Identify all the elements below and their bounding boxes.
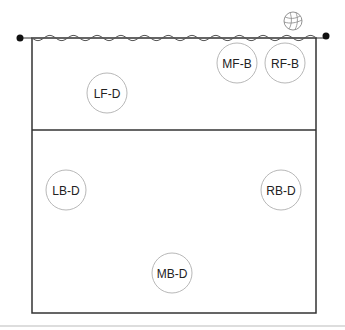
player-label: LB-D bbox=[52, 184, 80, 198]
left-net-post bbox=[17, 35, 24, 42]
players-group: MF-BRF-BLF-DLB-DRB-DMB-D bbox=[46, 43, 305, 293]
player-label: MB-D bbox=[157, 267, 188, 281]
volleyball-court-diagram: MF-BRF-BLF-DLB-DRB-DMB-D bbox=[0, 0, 345, 330]
player-rf-b: RF-B bbox=[265, 43, 305, 83]
player-rb-d: RB-D bbox=[261, 170, 301, 210]
player-mf-b: MF-B bbox=[217, 43, 257, 83]
player-label: RF-B bbox=[271, 57, 299, 71]
player-mb-d: MB-D bbox=[152, 253, 192, 293]
player-lf-d: LF-D bbox=[87, 73, 127, 113]
player-label: LF-D bbox=[94, 87, 121, 101]
volleyball-icon bbox=[284, 12, 302, 30]
player-lb-d: LB-D bbox=[46, 170, 86, 210]
player-label: RB-D bbox=[266, 184, 296, 198]
right-net-post bbox=[323, 33, 330, 40]
player-label: MF-B bbox=[222, 57, 251, 71]
